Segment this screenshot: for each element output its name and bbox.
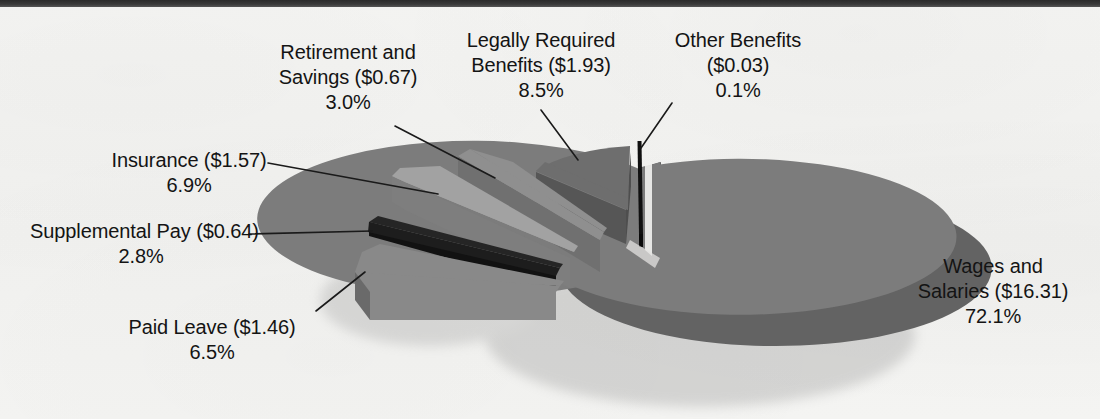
label-other-benefits: Other Benefits ($0.03) 0.1%: [650, 28, 826, 103]
label-retirement-line1: Retirement and: [280, 41, 415, 63]
leader-line-other-benefits: [641, 103, 672, 148]
label-paid-leave: Paid Leave ($1.46) 6.5%: [112, 315, 312, 365]
label-wages-percent: 72.1%: [893, 304, 1093, 329]
label-legally-required-line2: Benefits ($1.93): [471, 54, 611, 76]
label-retirement-line2: Savings ($0.67): [279, 66, 418, 88]
label-supplemental-percent: 2.8%: [30, 244, 252, 269]
label-paid-leave-percent: 6.5%: [112, 340, 312, 365]
chart-page: Retirement and Savings ($0.67) 3.0% Lega…: [0, 0, 1100, 419]
label-wages-line1: Wages and: [943, 255, 1043, 277]
label-legally-required-percent: 8.5%: [443, 78, 639, 103]
label-other-benefits-line2: ($0.03): [707, 54, 770, 76]
label-other-benefits-line1: Other Benefits: [675, 29, 801, 51]
label-legally-required-benefits: Legally Required Benefits ($1.93) 8.5%: [443, 28, 639, 103]
label-other-benefits-percent: 0.1%: [650, 78, 826, 103]
pie-slice-other-benefits-side: [639, 234, 643, 247]
label-insurance: Insurance ($1.57) 6.9%: [110, 148, 268, 198]
label-retirement-percent: 3.0%: [248, 90, 448, 115]
pie-slice-paid-leave-bottom-edge: [370, 292, 556, 320]
label-wages-line2: Salaries ($16.31): [918, 280, 1069, 302]
label-insurance-percent: 6.9%: [110, 173, 268, 198]
label-paid-leave-line1: Paid Leave ($1.46): [128, 316, 295, 338]
label-supplemental-pay: Supplemental Pay ($0.64) 2.8%: [30, 219, 252, 269]
label-retirement-and-savings: Retirement and Savings ($0.67) 3.0%: [248, 40, 448, 115]
label-supplemental-line1: Supplemental Pay ($0.64): [30, 220, 259, 242]
label-insurance-line1: Insurance ($1.57): [111, 149, 266, 171]
label-wages-and-salaries: Wages and Salaries ($16.31) 72.1%: [893, 254, 1093, 329]
label-legally-required-line1: Legally Required: [467, 29, 616, 51]
